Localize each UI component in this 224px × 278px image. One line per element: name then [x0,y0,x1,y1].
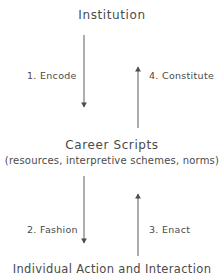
edge-label-encode: 1. Encode [27,70,77,81]
career-scripts-cycle-diagram: Institution Career Scripts (resources, i… [0,0,224,278]
arrow-layer [0,0,224,278]
edge-label-fashion: 2. Fashion [27,224,78,235]
edge-label-constitute: 4. Constitute [149,70,214,81]
edge-label-enact: 3. Enact [149,224,190,235]
